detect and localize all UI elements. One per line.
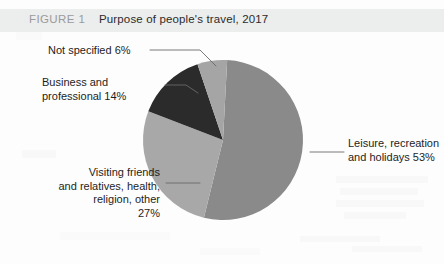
pie-slices [143,60,303,220]
pie-chart-svg [0,0,444,264]
pie-label-leisure-line2: and holidays 53% [348,151,444,165]
pie-label-visiting-line1: Visiting friends [10,166,160,180]
pie-label-visiting-line4: 27% [10,207,160,221]
pie-label-visiting-line2: and relatives, health, [10,180,160,194]
pie-label-business-line2: professional 14% [42,90,160,104]
pie-chart [0,0,444,264]
pie-label-leisure-line1: Leisure, recreation [348,137,444,151]
pie-label-visiting-line3: religion, other [10,193,160,207]
pie-label-not-specified: Not specified 6% [48,44,131,58]
figure-container: FIGURE 1 Purpose of people's travel, 201… [0,0,444,264]
pie-label-business-line1: Business and [42,76,160,90]
pie-label-not-specified-line1: Not specified 6% [48,44,131,58]
pie-label-visiting: Visiting friends and relatives, health, … [10,166,160,220]
pie-label-business: Business and professional 14% [42,76,160,103]
pie-label-leisure: Leisure, recreation and holidays 53% [348,137,444,164]
